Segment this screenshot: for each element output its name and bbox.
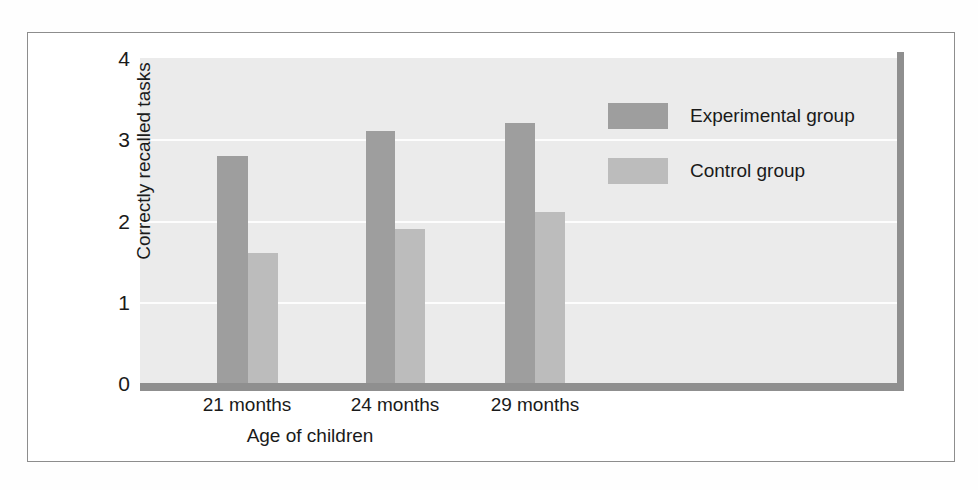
legend-label-experimental: Experimental group <box>690 105 855 127</box>
bar-experimental-21-months[interactable] <box>217 156 248 384</box>
legend-swatch-control <box>608 158 668 184</box>
x-tick-label-29-months: 29 months <box>455 394 615 416</box>
y-tick-label-2: 2 <box>96 211 130 232</box>
legend-label-control: Control group <box>690 160 805 182</box>
y-tick-label-3: 3 <box>96 129 130 150</box>
y-axis: 4 3 2 1 0 Correctly recalled tasks <box>96 0 130 490</box>
y-tick-label-4: 4 <box>96 48 130 69</box>
legend-item-experimental[interactable]: Experimental group <box>608 103 855 129</box>
y-tick-label-1: 1 <box>96 292 130 313</box>
bar-control-24-months[interactable] <box>395 229 425 383</box>
x-tick-label-24-months: 24 months <box>315 394 475 416</box>
axis-right-wall <box>897 52 904 391</box>
axis-baseline <box>140 383 903 391</box>
legend-swatch-experimental <box>608 103 668 129</box>
plot-area: Experimental group Control group <box>140 58 897 383</box>
x-axis: 21 months 24 months 29 months <box>140 394 897 424</box>
y-axis-title: Correctly recalled tasks <box>133 31 155 291</box>
legend-item-control[interactable]: Control group <box>608 158 805 184</box>
x-axis-title: Age of children <box>160 425 460 447</box>
figure-container: Experimental group Control group 4 3 2 1… <box>0 0 978 490</box>
y-tick-label-0: 0 <box>96 373 130 394</box>
bar-experimental-24-months[interactable] <box>366 131 395 383</box>
bar-control-21-months[interactable] <box>248 253 278 383</box>
x-tick-label-21-months: 21 months <box>167 394 327 416</box>
bar-control-29-months[interactable] <box>535 212 565 383</box>
bar-experimental-29-months[interactable] <box>505 123 535 383</box>
